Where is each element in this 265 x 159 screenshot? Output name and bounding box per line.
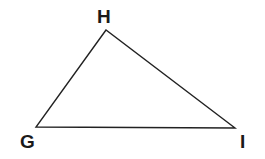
triangle-ghi <box>36 30 235 128</box>
triangle-diagram <box>0 0 265 159</box>
vertex-label-i: I <box>240 132 245 151</box>
vertex-label-h: H <box>97 7 111 26</box>
vertex-label-g: G <box>20 132 35 151</box>
